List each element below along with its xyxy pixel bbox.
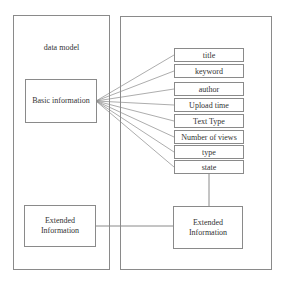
basic-information-label: Basic information <box>32 96 90 106</box>
left-extended-information-box: Extended Information <box>24 205 96 247</box>
data-model-title: data model <box>13 43 110 53</box>
attribute-text-type: Text Type <box>174 114 244 128</box>
left-extended-line1: Extended <box>45 216 75 226</box>
attribute-keyword: keyword <box>174 64 244 78</box>
attribute-upload-time: Upload time <box>174 98 244 112</box>
right-extended-information-box: Extended Information <box>173 206 243 249</box>
attribute-author: author <box>174 82 244 96</box>
attribute-type: type <box>174 145 244 159</box>
right-extended-line2: Information <box>189 228 227 238</box>
left-extended-line2: Information <box>41 226 79 236</box>
right-extended-line1: Extended <box>193 218 223 228</box>
attribute-title: title <box>174 48 244 62</box>
attribute-number-of-views: Number of views <box>174 130 244 144</box>
basic-information-box: Basic information <box>25 79 97 123</box>
attribute-state: state <box>174 160 244 174</box>
